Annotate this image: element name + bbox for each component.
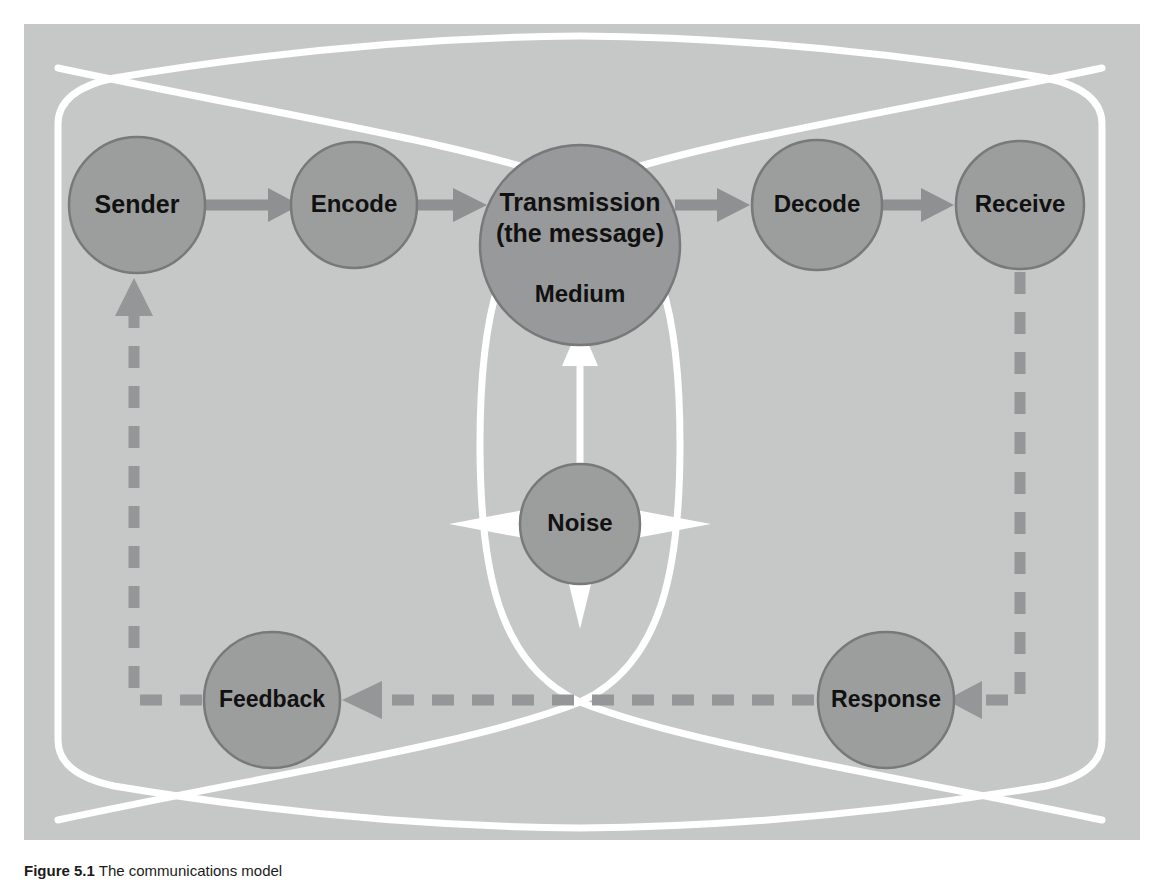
edge-transmission-to-decode xyxy=(675,188,750,222)
node-receive[interactable]: Receive xyxy=(956,141,1084,269)
node-encode-label: Encode xyxy=(311,190,398,217)
node-feedback-label: Feedback xyxy=(219,686,325,712)
figure-caption-number: Figure 5.1 xyxy=(24,862,95,879)
edge-encode-to-transmission xyxy=(417,188,487,222)
edge-sender-to-encode xyxy=(205,188,300,222)
figure-caption: Figure 5.1 The communications model xyxy=(24,862,1140,887)
node-response[interactable]: Response xyxy=(818,632,954,768)
node-transmission[interactable]: Transmission (the message) Medium xyxy=(480,145,680,345)
node-feedback[interactable]: Feedback xyxy=(204,632,340,768)
node-noise[interactable]: Noise xyxy=(520,464,640,584)
diagram-panel: Transmission (the message) Medium Sender… xyxy=(24,24,1140,840)
node-sender[interactable]: Sender xyxy=(69,137,205,273)
node-noise-label: Noise xyxy=(547,509,612,536)
node-receive-label: Receive xyxy=(975,190,1066,217)
node-decode[interactable]: Decode xyxy=(752,140,882,270)
edge-decode-to-receive xyxy=(882,188,954,222)
edge-feedback-to-sender xyxy=(115,278,202,700)
figure-caption-text: The communications model xyxy=(99,862,282,879)
node-response-label: Response xyxy=(831,686,941,712)
figure-container: Transmission (the message) Medium Sender… xyxy=(0,0,1162,887)
node-transmission-sublabel: (the message) xyxy=(496,219,664,247)
node-encode[interactable]: Encode xyxy=(291,142,417,268)
node-sender-label: Sender xyxy=(95,190,180,218)
node-transmission-medium-label: Medium xyxy=(535,280,626,307)
communications-model-diagram: Transmission (the message) Medium Sender… xyxy=(24,24,1140,840)
node-decode-label: Decode xyxy=(774,190,861,217)
edge-receive-to-response xyxy=(946,272,1020,719)
node-transmission-label: Transmission xyxy=(499,188,660,216)
